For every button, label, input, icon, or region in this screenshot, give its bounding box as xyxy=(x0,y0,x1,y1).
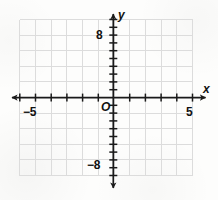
y-tick-label-neg8: −8 xyxy=(87,159,100,171)
graph-figure: −5 5 8 −8 O x y xyxy=(0,0,218,200)
origin-label: O xyxy=(101,101,110,113)
y-axis-label: y xyxy=(118,9,125,21)
x-tick-label-5: 5 xyxy=(186,106,192,118)
x-axis-label: x xyxy=(203,83,210,95)
x-tick-label-neg5: −5 xyxy=(23,106,36,118)
y-tick-label-8: 8 xyxy=(96,29,102,41)
